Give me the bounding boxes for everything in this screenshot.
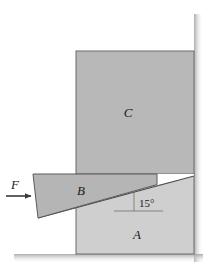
block-c-label: C [124,105,133,120]
shadow-bottom [14,254,203,263]
mechanics-diagram-svg: C B A F 15° [0,0,219,280]
angle-label: 15° [139,197,154,209]
force-label: F [10,177,20,192]
block-a-label: A [132,227,141,242]
shadow-right [194,14,203,262]
block-c-shape [76,51,194,174]
figure-root: C B A F 15° [0,0,219,280]
block-b-label: B [77,183,85,198]
